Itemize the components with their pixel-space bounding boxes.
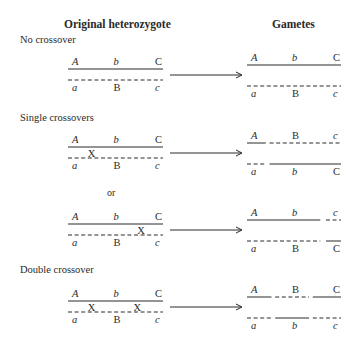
- gamete-allele-label: C: [333, 243, 340, 254]
- gamete-allele-label: A: [250, 52, 258, 63]
- allele-label: A: [71, 288, 79, 299]
- allele-label: C: [155, 211, 162, 222]
- allele-label: b: [114, 288, 119, 299]
- allele-label: B: [114, 160, 121, 171]
- allele-label: b: [114, 211, 119, 222]
- allele-label: B: [114, 82, 121, 93]
- gamete-allele-label: c: [333, 130, 338, 141]
- allele-label: C: [155, 134, 162, 145]
- gamete-allele-label: b: [292, 52, 297, 63]
- gamete-allele-label: C: [333, 52, 340, 63]
- allele-label: B: [114, 237, 121, 248]
- allele-label: B: [114, 314, 121, 325]
- allele-label: a: [72, 82, 77, 93]
- gamete-allele-label: B: [292, 88, 299, 99]
- gamete-allele-label: A: [250, 207, 258, 218]
- gamete-allele-label: a: [251, 320, 256, 331]
- gamete-allele-label: B: [292, 130, 299, 141]
- allele-label: c: [155, 237, 160, 248]
- gamete-allele-label: b: [292, 207, 297, 218]
- allele-label: C: [155, 288, 162, 299]
- gamete-allele-label: a: [251, 243, 256, 254]
- gamete-allele-label: B: [292, 243, 299, 254]
- crossover-diagram: AbCaBcAbCaBcAbCaBcXABcabCAbCaBcXAbcaBCAb…: [0, 0, 361, 350]
- allele-label: c: [155, 160, 160, 171]
- gamete-allele-label: C: [333, 284, 340, 295]
- allele-label: a: [72, 160, 77, 171]
- gamete-allele-label: C: [333, 166, 340, 177]
- allele-label: b: [114, 134, 119, 145]
- gamete-allele-label: a: [251, 88, 256, 99]
- allele-label: c: [155, 314, 160, 325]
- gamete-allele-label: b: [292, 166, 297, 177]
- allele-label: A: [71, 211, 79, 222]
- allele-label: C: [155, 56, 162, 67]
- allele-label: b: [114, 56, 119, 67]
- allele-label: a: [72, 237, 77, 248]
- crossover-mark: X: [88, 302, 96, 313]
- gamete-allele-label: b: [292, 320, 297, 331]
- crossover-mark: X: [88, 148, 96, 159]
- gamete-allele-label: c: [333, 88, 338, 99]
- crossover-mark: X: [133, 302, 141, 313]
- allele-label: c: [155, 82, 160, 93]
- allele-label: a: [72, 314, 77, 325]
- allele-label: A: [71, 56, 79, 67]
- gamete-allele-label: a: [251, 166, 256, 177]
- gamete-allele-label: c: [333, 320, 338, 331]
- gamete-allele-label: A: [250, 130, 258, 141]
- gamete-allele-label: c: [333, 207, 338, 218]
- crossover-mark: X: [137, 225, 145, 236]
- gamete-allele-label: B: [292, 284, 299, 295]
- allele-label: A: [71, 134, 79, 145]
- gamete-allele-label: A: [250, 284, 258, 295]
